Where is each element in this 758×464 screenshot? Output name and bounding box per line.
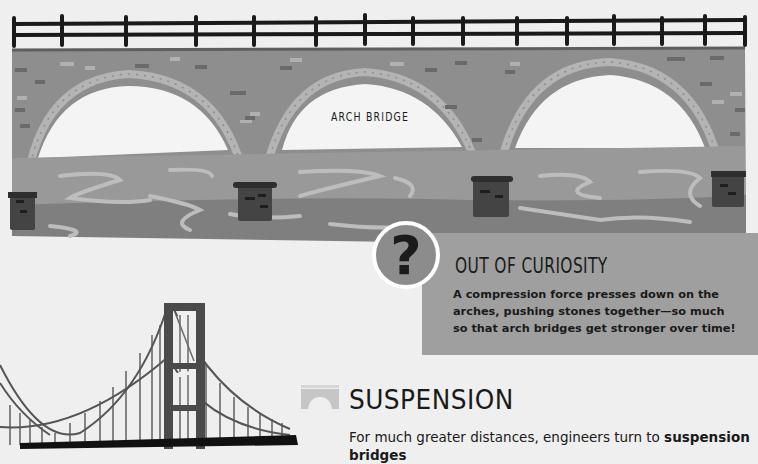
curiosity-body-line: so that arch bridges get stronger over t…	[453, 320, 758, 337]
arch-bridge-label: ARCH BRIDGE	[331, 109, 409, 124]
curiosity-body: A compression force presses down on the …	[453, 286, 758, 337]
section-body-suspension: For much greater distances, engineers tu…	[349, 428, 758, 464]
curiosity-title: OUT OF CURIOSITY	[455, 253, 608, 278]
curiosity-body-line: A compression force presses down on the	[453, 286, 758, 303]
suspension-bridge-illustration	[0, 295, 300, 449]
section-title-suspension: SUSPENSION	[349, 384, 514, 415]
arch-bridge-small-icon	[301, 385, 339, 409]
section-body-keyword: suspension	[664, 429, 750, 445]
curiosity-body-line: arches, pushing stones together—so much	[453, 303, 758, 320]
curiosity-badge: ?	[372, 221, 440, 289]
section-body-text: For much greater distances, engineers tu…	[349, 429, 664, 445]
question-mark-icon: ?	[390, 229, 421, 283]
section-body-line2: bridges	[349, 446, 758, 464]
